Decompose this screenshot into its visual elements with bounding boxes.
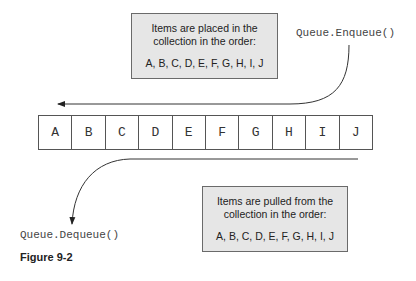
queue-cell: H — [273, 115, 306, 150]
queue-cell: D — [139, 115, 172, 150]
dequeue-order: A, B, C, D, E, F, G, H, I, J — [203, 230, 347, 243]
queue-cell: G — [239, 115, 272, 150]
dequeue-text-line1: Items are pulled from the — [203, 195, 347, 208]
enqueue-text-line1: Items are placed in the — [132, 22, 277, 35]
queue-cells: A B C D E F G H I J — [38, 115, 373, 150]
dequeue-text-line2: collection in the order: — [203, 208, 347, 221]
queue-cell: I — [306, 115, 339, 150]
enqueue-text-line2: collection in the order: — [132, 35, 277, 48]
queue-cell: F — [206, 115, 239, 150]
enqueue-order: A, B, C, D, E, F, G, H, I, J — [132, 57, 277, 70]
queue-cell: B — [72, 115, 105, 150]
queue-cell: A — [39, 115, 72, 150]
queue-cell: C — [106, 115, 139, 150]
queue-cell: J — [340, 115, 373, 150]
dequeue-description-box: Items are pulled from the collection in … — [202, 186, 348, 252]
enqueue-label: Queue.Enqueue() — [296, 27, 395, 39]
dequeue-label: Queue.Dequeue() — [20, 229, 119, 241]
queue-cell: E — [173, 115, 206, 150]
enqueue-description-box: Items are placed in the collection in th… — [131, 13, 278, 79]
figure-caption: Figure 9-2 — [20, 251, 73, 263]
